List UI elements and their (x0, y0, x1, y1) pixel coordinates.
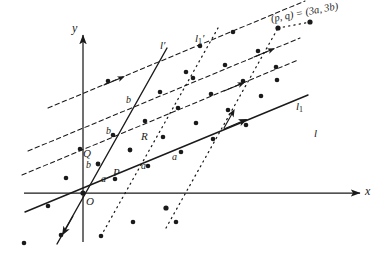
lattice-point (176, 106, 181, 111)
lattice-point (275, 78, 280, 83)
solid-line-l (25, 95, 308, 212)
point-label-R: R (141, 131, 148, 142)
lattice-point (111, 133, 116, 138)
lattice-point (106, 79, 111, 84)
lattice-geometry-figure: y x O P Q R l′ l1′ l1 l a a a b b b (p, … (0, 0, 385, 255)
lattice-point (231, 30, 236, 35)
solid-line-l-prime (57, 48, 167, 244)
lattice-point (59, 233, 64, 238)
dashed-line-family-l1 (28, 1, 305, 151)
dotted-line-l1-prime-right (166, 28, 278, 228)
lattice-point-R (128, 148, 133, 153)
lattice-point (143, 119, 148, 124)
lattice-point (179, 150, 184, 155)
dashed-line-through-QR (22, 60, 298, 175)
point-label-O: O (86, 196, 94, 207)
lattice-point (46, 204, 51, 209)
axes-group (24, 35, 360, 242)
lattice-point (244, 123, 249, 128)
segment-label-b-3: b (126, 95, 131, 105)
figure-canvas (0, 0, 385, 255)
lattice-point (131, 220, 136, 225)
line-label-l1-prime-mark: ′ (202, 32, 204, 44)
lattice-point (223, 63, 228, 68)
lattice-point (161, 135, 166, 140)
lattice-point-Q (96, 162, 101, 167)
line-label-l-prime: l′ (160, 40, 165, 51)
solid-line-l-prime-arrow (64, 216, 73, 232)
lattice-point (64, 176, 69, 181)
point-label-P: P (113, 167, 120, 178)
point-label-Q: Q (83, 148, 91, 159)
segment-label-a-1: a (101, 174, 106, 184)
solid-line-l-group (25, 95, 308, 212)
segment-label-b-2: b (106, 126, 111, 136)
lattice-point (274, 65, 279, 70)
lattice-point (241, 79, 246, 84)
dashed-line-QR-arrow (224, 84, 242, 92)
lattice-point (256, 49, 261, 54)
lattice-point-origin (80, 190, 85, 195)
y-axis-label: y (72, 22, 77, 34)
lattice-point (163, 205, 168, 210)
dashed-line-QR (22, 60, 298, 175)
lattice-point (307, 19, 312, 24)
dashed-line-upper (48, 1, 305, 108)
dotted-line-to-pq (278, 22, 310, 28)
lattice-point (226, 108, 231, 113)
lattice-point-pq (275, 25, 280, 30)
lattice-point (158, 90, 163, 95)
lattice-point (194, 121, 199, 126)
lattice-points-group (22, 19, 313, 245)
lattice-point (99, 234, 104, 239)
lattice-point (211, 137, 216, 142)
lattice-point (259, 94, 264, 99)
lattice-point (184, 70, 189, 75)
line-label-l1-sub: 1 (299, 105, 303, 114)
lattice-point (209, 92, 214, 97)
line-label-l-prime-text: l′ (160, 39, 165, 51)
lattice-point (146, 164, 151, 169)
segment-label-a-3: a (172, 152, 177, 162)
line-label-l1-prime: l1′ (195, 33, 204, 46)
line-label-l: l (314, 128, 317, 139)
solid-line-l-prime-group (57, 48, 167, 244)
lattice-point (174, 220, 179, 225)
line-label-l1: l1 (296, 101, 303, 114)
lattice-point (22, 241, 27, 246)
segment-label-b-1: b (86, 160, 91, 170)
dotted-line-l1-prime (101, 28, 218, 236)
lattice-point (191, 76, 196, 81)
lattice-point (78, 147, 83, 152)
x-axis-label: x (365, 185, 370, 197)
segment-label-a-2: a (141, 161, 146, 171)
